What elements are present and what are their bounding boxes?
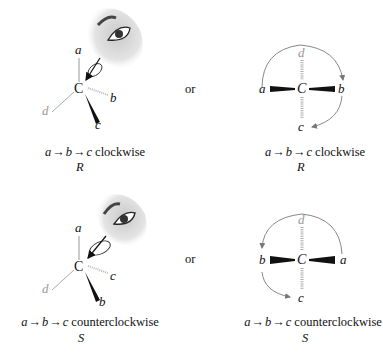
carbon-label: C <box>74 259 83 275</box>
caption-R-left: a→b→c clockwise <box>30 145 160 160</box>
config-label-R: R <box>297 160 305 175</box>
atom-label-c: c <box>298 290 304 306</box>
atom-label-c: c <box>110 268 116 284</box>
atom-label-d: d <box>42 281 49 297</box>
atom-label-d: d <box>298 45 305 61</box>
atom-label-b: b <box>99 294 106 310</box>
atom-label-a: a <box>75 42 82 58</box>
atom-label-b: b <box>338 81 345 97</box>
carbon-label: C <box>74 81 83 97</box>
config-label-S: S <box>302 331 308 346</box>
caption-S-right: a→b→c counterclockwise <box>228 315 383 330</box>
atom-label-b: b <box>110 90 117 106</box>
atom-label-d: d <box>42 103 49 119</box>
config-label-R: R <box>76 160 84 175</box>
atom-label-b: b <box>259 252 266 268</box>
config-label-S: S <box>78 331 84 346</box>
atom-label-c: c <box>298 119 304 135</box>
carbon-label: C <box>297 252 306 268</box>
or-connector: or <box>185 82 195 97</box>
carbon-label: C <box>297 81 306 97</box>
caption-R-right: a→b→c clockwise <box>250 145 380 160</box>
atom-label-c: c <box>95 117 101 133</box>
caption-S-left: a→b→c counterclockwise <box>5 315 175 330</box>
eye-icon-top <box>87 8 142 68</box>
atom-label-d: d <box>298 212 305 228</box>
atom-label-a: a <box>340 252 347 268</box>
atom-label-a: a <box>75 220 82 236</box>
or-connector: or <box>185 252 195 267</box>
diagram-canvas <box>0 0 383 355</box>
atom-label-a: a <box>259 81 266 97</box>
